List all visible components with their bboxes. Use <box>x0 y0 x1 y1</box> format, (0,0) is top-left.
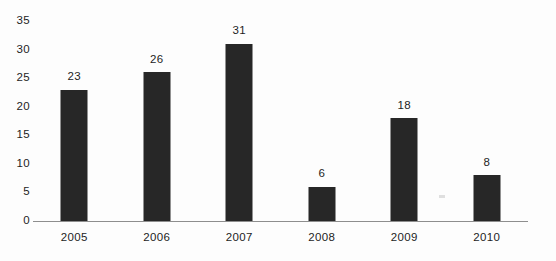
bar-chart: 05101520253035 2320052620063120076200818… <box>0 0 556 261</box>
bar-value-label-2009: 18 <box>398 100 411 112</box>
x-axis-category-label-2009: 2009 <box>391 232 418 244</box>
bar-2005[interactable] <box>61 90 88 221</box>
x-axis-category-label-2010: 2010 <box>473 232 500 244</box>
bar-group-2008: 62008 <box>281 0 364 221</box>
bar-2006[interactable] <box>143 72 170 221</box>
scan-artifact-speck <box>439 195 445 198</box>
bar-group-2010: 82010 <box>446 0 529 221</box>
bar-value-label-2008: 6 <box>318 168 325 180</box>
y-axis-tick-35: 35 <box>0 15 30 27</box>
bar-2007[interactable] <box>226 44 253 221</box>
bar-value-label-2005: 23 <box>68 71 81 83</box>
bar-2008[interactable] <box>308 187 335 221</box>
x-axis-category-label-2005: 2005 <box>61 232 88 244</box>
bars-container: 2320052620063120076200818200982010 <box>33 0 528 261</box>
bar-value-label-2007: 31 <box>233 25 246 37</box>
y-axis-tick-labels: 05101520253035 <box>0 0 30 261</box>
y-axis-tick-5: 5 <box>0 186 30 198</box>
x-axis-category-label-2007: 2007 <box>226 232 253 244</box>
bar-group-2009: 182009 <box>363 0 446 221</box>
bar-2010[interactable] <box>473 175 500 221</box>
y-axis-tick-10: 10 <box>0 158 30 170</box>
bar-value-label-2010: 8 <box>483 157 490 169</box>
x-axis-category-label-2008: 2008 <box>308 232 335 244</box>
y-axis-tick-20: 20 <box>0 101 30 113</box>
y-axis-tick-15: 15 <box>0 129 30 141</box>
y-axis-tick-25: 25 <box>0 72 30 84</box>
bar-group-2005: 232005 <box>33 0 116 221</box>
bar-value-label-2006: 26 <box>150 54 163 66</box>
bar-2009[interactable] <box>391 118 418 221</box>
bar-group-2006: 262006 <box>116 0 199 221</box>
bar-group-2007: 312007 <box>198 0 281 221</box>
x-axis-category-label-2006: 2006 <box>143 232 170 244</box>
y-axis-tick-0: 0 <box>0 215 30 227</box>
y-axis-tick-30: 30 <box>0 44 30 56</box>
